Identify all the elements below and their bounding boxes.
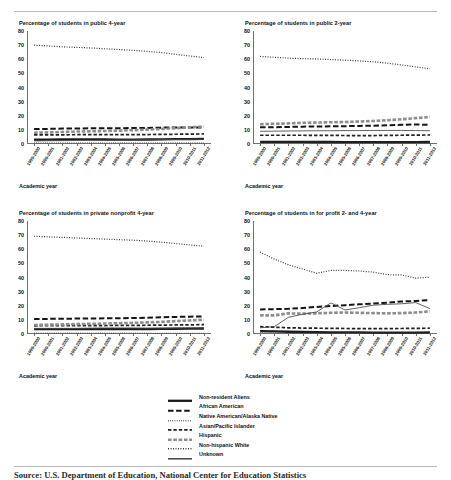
x-tick-label: 2007-2008	[365, 336, 380, 356]
y-tick-label: 60	[244, 56, 250, 62]
legend-key-thick-dash	[167, 430, 193, 440]
x-tick-labels: 1999-20002000-20012001-20022002-20032003…	[27, 336, 211, 370]
y-tick-label: 60	[18, 56, 24, 62]
x-tick-label: 2006-2007	[125, 146, 140, 166]
y-tick-label: 10	[244, 317, 250, 323]
y-tick-label: 10	[18, 127, 24, 133]
legend-item: Asian/Pacific Islander	[167, 421, 367, 431]
x-tick-label: 2006-2007	[125, 336, 140, 356]
series-lines	[253, 221, 437, 334]
x-tick-label: 2007-2008	[365, 146, 380, 166]
y-tick-label: 0	[21, 331, 24, 337]
plot-area: 01020304050607080	[27, 221, 211, 334]
legend-key-medium-dash	[167, 421, 193, 431]
legend-label: Non-resident Aliens	[199, 394, 250, 400]
figure-caption: Source: U.S. Department of Education, Na…	[14, 470, 437, 480]
x-axis-title: Academic year	[19, 373, 57, 379]
y-tick-label: 20	[18, 113, 24, 119]
x-tick-label: 2011-2012	[422, 146, 437, 166]
top-rule	[14, 11, 437, 12]
x-axis-title: Academic year	[245, 183, 283, 189]
y-tick-label: 70	[18, 232, 24, 238]
y-tick-label: 40	[244, 275, 250, 281]
legend-key-solid-thin	[167, 450, 193, 460]
x-tick-labels: 1999-20002000-20012001-20022002-20032003…	[253, 146, 437, 180]
y-tick-label: 70	[18, 42, 24, 48]
y-tick-label: 50	[244, 70, 250, 76]
y-tick-label: 20	[244, 113, 250, 119]
y-tick-label: 30	[244, 99, 250, 105]
y-tick-label: 70	[244, 42, 250, 48]
series-line	[260, 56, 430, 68]
legend-label: Unknown	[199, 451, 223, 457]
x-tick-label: 2007-2008	[139, 146, 154, 166]
y-tick-label: 40	[244, 85, 250, 91]
chart-title: Percentage of students in for profit 2- …	[245, 210, 377, 216]
figure-page: Percentage of students in public 4-year0…	[0, 0, 451, 480]
series-line	[260, 117, 430, 124]
x-tick-label: 2011-2012	[196, 336, 211, 356]
y-tick-label: 50	[18, 70, 24, 76]
y-tick-label: 10	[244, 127, 250, 133]
chart-panel-1: Percentage of students in public 2-year0…	[226, 14, 451, 202]
series-line	[260, 300, 430, 309]
y-tick-label: 80	[244, 28, 250, 34]
legend-key-long-dash	[167, 402, 193, 412]
y-tick-label: 70	[244, 232, 250, 238]
chart-panel-0: Percentage of students in public 4-year0…	[0, 14, 225, 202]
legend-label: Native American/Alaska Native	[199, 413, 278, 419]
y-tick-label: 30	[18, 99, 24, 105]
y-tick-label: 20	[18, 303, 24, 309]
y-tick-label: 80	[244, 218, 250, 224]
chart-title: Percentage of students in public 4-year	[19, 20, 125, 26]
chart-title: Percentage of students in private nonpro…	[19, 210, 154, 216]
series-line	[34, 325, 204, 326]
series-line	[260, 331, 430, 332]
legend-item: Hispanic	[167, 430, 367, 440]
plot-area: 01020304050607080	[253, 31, 437, 144]
y-tick-label: 80	[18, 218, 24, 224]
x-tick-label: 2001-2002	[54, 146, 69, 166]
y-tick-label: 0	[247, 331, 250, 337]
series-line	[34, 45, 204, 57]
bottom-rule	[14, 466, 437, 467]
legend-key-small-dots	[167, 440, 193, 450]
x-tick-labels: 1999-20002000-20012001-20022002-20032003…	[27, 146, 211, 180]
series-line	[260, 311, 430, 315]
y-tick-label: 40	[18, 85, 24, 91]
legend-label: Hispanic	[199, 432, 221, 438]
legend-key-fine-dots	[167, 411, 193, 421]
x-axis-title: Academic year	[19, 183, 57, 189]
legend-item: Native American/Alaska Native	[167, 411, 367, 421]
series-line	[260, 327, 430, 329]
y-tick-label: 60	[244, 246, 250, 252]
y-tick-label: 10	[18, 317, 24, 323]
series-line	[260, 130, 430, 131]
series-line	[34, 320, 204, 325]
series-line	[34, 134, 204, 135]
legend-item: Non-hispanic White	[167, 440, 367, 450]
x-tick-labels: 1999-20002000-20012001-20022002-20032003…	[253, 336, 437, 370]
y-tick-label: 30	[18, 289, 24, 295]
series-line	[260, 125, 430, 128]
y-tick-label: 0	[247, 141, 250, 147]
series-line	[34, 316, 204, 319]
series-line	[34, 236, 204, 246]
x-tick-label: 2011-2012	[422, 336, 437, 356]
x-tick-label: 2007-2008	[139, 336, 154, 356]
legend-item: Non-resident Aliens	[167, 392, 367, 402]
legend-label: African American	[199, 403, 243, 409]
x-tick-label: 2001-2002	[280, 336, 295, 356]
chart-panel-2: Percentage of students in private nonpro…	[0, 204, 225, 392]
y-tick-label: 50	[18, 260, 24, 266]
x-tick-label: 2006-2007	[351, 336, 366, 356]
x-tick-label: 2000-2001	[266, 336, 281, 356]
y-tick-label: 30	[244, 289, 250, 295]
series-line	[260, 303, 430, 328]
y-tick-label: 50	[244, 260, 250, 266]
chart-panel-3: Percentage of students in for profit 2- …	[226, 204, 451, 392]
legend-key-solid-thick	[167, 392, 193, 402]
y-tick-label: 60	[18, 246, 24, 252]
y-tick-label: 0	[21, 141, 24, 147]
chart-title: Percentage of students in public 2-year	[245, 20, 351, 26]
